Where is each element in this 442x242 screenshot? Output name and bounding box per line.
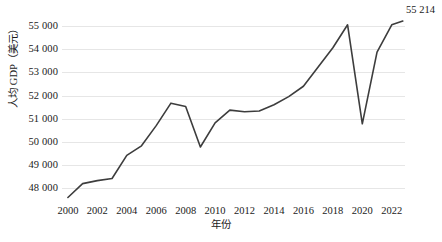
x-tick-label: 2022 [372, 205, 412, 216]
plot-area [62, 19, 405, 201]
y-tick-label: 50 000 [0, 137, 58, 148]
gdp-per-capita-line-chart: 48 00049 00050 00051 00052 00053 00054 0… [0, 0, 442, 242]
series-line-gdp [68, 21, 403, 198]
series-line-chart [62, 19, 405, 201]
y-tick-label: 48 000 [0, 183, 58, 194]
y-axis-title: 人均 GDP（美元） [8, 6, 20, 126]
x-axis-title: 年份 [0, 219, 442, 231]
end-value-label: 55 214 [406, 4, 435, 15]
y-tick-label: 49 000 [0, 160, 58, 171]
